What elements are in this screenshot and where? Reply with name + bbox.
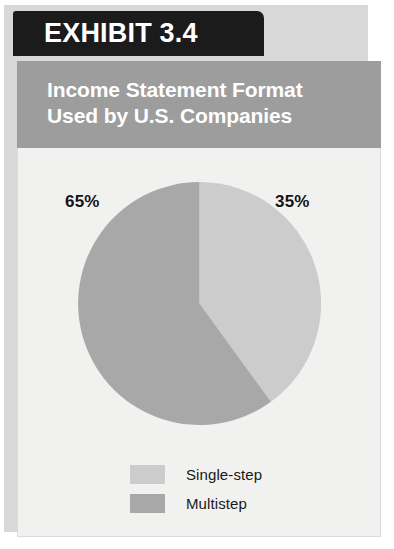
legend-label-single-step: Single-step [186,466,262,483]
exhibit-card: 65% 35% Single-step Multistep Income Sta… [17,11,381,538]
pie-chart [78,182,321,425]
exhibit-title: Income Statement Format Used by U.S. Com… [47,77,367,129]
chart-legend: Single-step Multistep [130,460,350,518]
pie-chart-svg [78,182,321,425]
legend-item-single-step[interactable]: Single-step [130,460,350,489]
pie-label-multistep-percent: 65% [65,192,100,212]
exhibit-title-band: Income Statement Format Used by U.S. Com… [17,61,381,148]
legend-swatch-multistep [130,494,165,513]
pie-label-single-step-percent: 35% [275,192,310,212]
exhibit-number-label: EXHIBIT 3.4 [13,18,198,49]
legend-item-multistep[interactable]: Multistep [130,489,350,518]
exhibit-number-tab: EXHIBIT 3.4 [13,11,264,56]
exhibit-body-panel: 65% 35% Single-step Multistep [17,148,381,537]
legend-swatch-single-step [130,465,165,484]
legend-label-multistep: Multistep [186,495,247,512]
